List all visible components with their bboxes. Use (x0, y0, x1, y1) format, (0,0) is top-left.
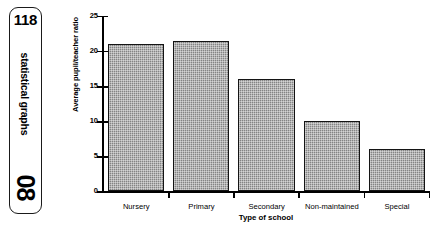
y-tick-label: 25 (90, 11, 98, 20)
y-tick-label: 10 (90, 116, 98, 125)
x-tick-label: Primary (188, 202, 214, 211)
y-axis-title: Average pupil/teacher ratio (71, 5, 80, 125)
bar-series (104, 16, 430, 191)
y-tick-label: 20 (90, 46, 98, 55)
x-tick-mark (233, 191, 235, 198)
section-label-container: statistical graphs (10, 27, 41, 161)
y-tick-mark (97, 191, 108, 192)
x-tick-mark (364, 191, 366, 198)
x-tick-mark (429, 191, 431, 198)
bar (304, 121, 360, 191)
page-number: 118 (14, 12, 37, 27)
x-tick-mark (168, 191, 170, 198)
x-tick-label: Non-maintained (305, 202, 359, 211)
y-tick-label: 0 (94, 186, 98, 195)
bar (108, 44, 164, 191)
chapter-number: 08 (13, 174, 38, 200)
x-tick-mark (298, 191, 300, 198)
x-axis-line (102, 191, 430, 193)
bar (238, 79, 294, 191)
y-tick-label: 5 (94, 151, 98, 160)
chapter-tab: 118 statistical graphs 08 (9, 7, 42, 214)
x-tick-label: Secondary (248, 202, 284, 211)
x-axis-title: Type of school (102, 213, 430, 222)
section-label: statistical graphs (20, 53, 32, 136)
plot-area: 0510152025 NurseryPrimarySecondaryNon-ma… (102, 16, 430, 193)
x-tick-label: Nursery (123, 202, 150, 211)
bar (369, 149, 425, 191)
bar-chart: Average pupil/teacher ratio 0510152025 N… (56, 8, 438, 236)
y-tick-label: 15 (90, 81, 98, 90)
chapter-number-container: 08 (10, 161, 41, 213)
bar (173, 41, 229, 192)
x-tick-label: Special (385, 202, 410, 211)
